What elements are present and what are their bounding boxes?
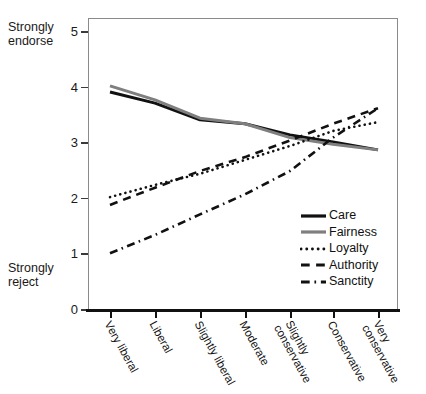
y-axis-tick-mark <box>81 253 88 255</box>
y-axis-tick-label: 5 <box>62 24 78 39</box>
x-axis-tick-label: Moderate <box>238 319 272 367</box>
y-axis-tick-label: 0 <box>62 302 78 317</box>
legend-swatch-fairness <box>300 226 327 237</box>
x-axis-tick-mark <box>155 311 157 318</box>
legend-label: Care <box>329 208 356 222</box>
x-axis-tick-mark <box>245 311 247 318</box>
y-axis-tick-mark <box>81 31 88 33</box>
y-axis-tick-mark <box>81 198 88 200</box>
legend-item-authority: Authority <box>300 257 392 274</box>
y-axis-tick-label: 1 <box>62 246 78 261</box>
y-axis-tick-label: 2 <box>62 191 78 206</box>
x-axis-tick-mark <box>110 311 112 318</box>
chart-legend: CareFairnessLoyaltyAuthoritySanctity <box>300 207 392 290</box>
legend-swatch-sanctity <box>300 276 327 287</box>
x-axis-tick-label: Very liberal <box>103 319 141 375</box>
y-axis-tick-mark <box>81 87 88 89</box>
x-axis-tick-mark <box>200 311 202 318</box>
x-axis-tick-label: Liberal <box>148 319 175 355</box>
legend-swatch-care <box>300 210 327 221</box>
chart-figure: Strongly endorse Strongly reject 543210 … <box>0 0 426 394</box>
y-axis-top-note: Strongly endorse <box>8 21 54 48</box>
legend-label: Sanctity <box>329 274 373 288</box>
legend-swatch-loyalty <box>300 243 327 254</box>
legend-swatch-authority <box>300 259 327 270</box>
y-axis-tick-label: 3 <box>62 135 78 150</box>
legend-item-sanctity: Sanctity <box>300 273 392 290</box>
x-axis-tick-mark <box>378 311 380 318</box>
x-axis-tick-label: Slightly liberal <box>193 319 238 387</box>
legend-label: Authority <box>329 258 378 272</box>
legend-item-loyalty: Loyalty <box>300 240 392 257</box>
y-axis-tick-label: 4 <box>62 80 78 95</box>
x-axis-tick-label: Slightlyconservative <box>273 319 323 385</box>
series-line-fairness <box>110 86 378 150</box>
x-axis-tick-label: Veryconservative <box>361 319 411 385</box>
x-axis-tick-mark <box>333 311 335 318</box>
y-axis-tick-mark <box>81 142 88 144</box>
legend-label: Loyalty <box>329 241 369 255</box>
legend-label: Fairness <box>329 225 377 239</box>
y-axis-bottom-note: Strongly reject <box>8 262 54 289</box>
legend-item-care: Care <box>300 207 392 224</box>
x-axis-tick-mark <box>290 311 292 318</box>
legend-item-fairness: Fairness <box>300 224 392 241</box>
